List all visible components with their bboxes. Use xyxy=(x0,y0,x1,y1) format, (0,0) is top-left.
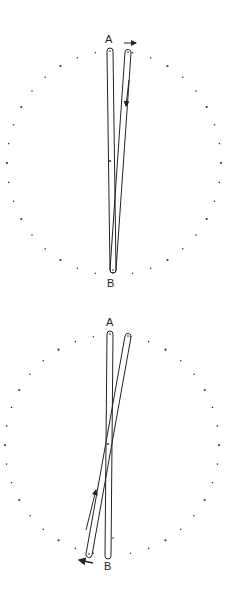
circle-dot xyxy=(217,425,219,427)
circle-dot xyxy=(18,389,20,391)
circle-dot xyxy=(148,548,150,550)
circle-dot xyxy=(20,106,22,108)
circle-dot xyxy=(95,273,97,275)
circle-dot xyxy=(132,52,134,54)
circle-dot xyxy=(212,407,214,409)
circle-dot xyxy=(31,234,33,236)
circle-dot xyxy=(11,407,13,409)
circle-dot xyxy=(4,444,6,446)
circle-dot xyxy=(130,553,132,555)
circle-dot xyxy=(195,234,197,236)
bottom-label-b: B xyxy=(104,561,111,572)
top-bar-ab xyxy=(107,48,116,273)
circle-dot xyxy=(93,336,95,338)
circle-dot xyxy=(219,182,221,184)
circle-dot xyxy=(214,124,216,126)
circle-dot xyxy=(193,374,195,376)
bottom-label-a: A xyxy=(106,317,113,328)
circle-dot xyxy=(42,529,44,531)
circle-dot xyxy=(214,201,216,203)
circle-dot xyxy=(77,57,79,59)
top-figure xyxy=(6,43,222,274)
bottom-bar-rotating xyxy=(86,333,131,557)
circle-dot xyxy=(180,529,182,531)
circle-dot xyxy=(212,482,214,484)
bottom-arrow-left-icon xyxy=(79,560,93,563)
bottom-figure xyxy=(4,331,220,563)
circle-dot xyxy=(13,201,15,203)
circle-dot xyxy=(150,267,152,269)
circle-dot xyxy=(8,143,10,145)
circle-dot xyxy=(57,539,59,541)
circle-dot xyxy=(18,499,20,501)
circle-dot xyxy=(29,374,31,376)
circle-dot xyxy=(44,76,46,78)
circle-dot xyxy=(217,463,219,465)
circle-dot xyxy=(206,218,208,220)
circle-dot xyxy=(11,482,13,484)
diagram-canvas xyxy=(0,0,236,600)
circle-dot xyxy=(148,341,150,343)
circle-dot xyxy=(164,349,166,351)
circle-dot xyxy=(180,360,182,362)
circle-dot xyxy=(57,349,59,351)
circle-dot xyxy=(59,65,61,67)
circle-dot xyxy=(8,182,10,184)
circle-dot xyxy=(13,124,15,126)
circle-dot xyxy=(95,52,97,54)
circle-dot xyxy=(204,499,206,501)
circle-dot xyxy=(42,360,44,362)
circle-dot xyxy=(75,341,77,343)
top-label-b: B xyxy=(107,278,114,289)
top-label-a: A xyxy=(105,34,112,45)
circle-dot xyxy=(20,218,22,220)
circle-dot xyxy=(164,539,166,541)
circle-dot xyxy=(204,389,206,391)
circle-dot xyxy=(6,463,8,465)
circle-dot xyxy=(132,273,134,275)
circle-dot xyxy=(31,90,33,92)
circle-dot xyxy=(166,259,168,261)
circle-dot xyxy=(6,425,8,427)
circle-dot xyxy=(75,548,77,550)
circle-dot xyxy=(219,143,221,145)
circle-dot xyxy=(182,76,184,78)
circle-dot xyxy=(195,90,197,92)
circle-dot xyxy=(218,444,220,446)
top-dot-circle xyxy=(6,52,222,274)
circle-dot xyxy=(59,259,61,261)
circle-dot xyxy=(77,267,79,269)
circle-dot xyxy=(193,515,195,517)
circle-dot xyxy=(6,162,8,164)
circle-dot xyxy=(44,248,46,250)
circle-dot xyxy=(206,106,208,108)
circle-dot xyxy=(150,57,152,59)
circle-dot xyxy=(182,248,184,250)
circle-dot xyxy=(166,65,168,67)
circle-dot xyxy=(220,162,222,164)
circle-dot xyxy=(29,515,31,517)
